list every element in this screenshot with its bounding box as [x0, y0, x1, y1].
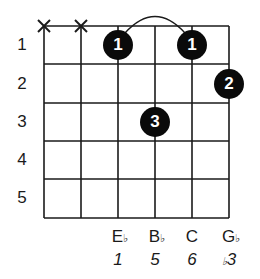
note-letter: C: [186, 227, 198, 246]
interval-string3: 1: [103, 250, 133, 270]
note-name-string6: G♭: [216, 227, 246, 247]
interval-value: 6: [187, 250, 196, 269]
finger-dot-string3-fret1: 1: [103, 30, 133, 60]
finger-dot-string6-fret2: 2: [214, 69, 244, 99]
interval-string4: 5: [140, 250, 170, 270]
fret-number-5: 5: [12, 188, 32, 208]
fret-number-1: 1: [12, 35, 32, 55]
interval-string6: ♭3: [214, 250, 244, 270]
note-letter: G: [222, 227, 235, 246]
flat-symbol: ♭: [235, 232, 240, 244]
finger-dot-string5-fret1: 1: [177, 30, 207, 60]
fret-number-2: 2: [12, 74, 32, 94]
flat-symbol: ♭: [123, 232, 128, 244]
fret-number-3: 3: [12, 112, 32, 132]
note-name-string5: C: [177, 227, 207, 247]
interval-string5: 6: [177, 250, 207, 270]
note-name-string3: E♭: [105, 227, 135, 247]
interval-value: 1: [113, 250, 122, 269]
fret-number-4: 4: [12, 150, 32, 170]
note-letter: E: [112, 227, 123, 246]
note-letter: B: [149, 227, 160, 246]
finger-dot-string4-fret3: 3: [140, 107, 170, 137]
interval-prefix: ♭: [222, 255, 227, 267]
note-name-string4: B♭: [142, 227, 172, 247]
flat-symbol: ♭: [160, 232, 165, 244]
interval-value: 3: [227, 250, 236, 269]
interval-value: 5: [150, 250, 159, 269]
